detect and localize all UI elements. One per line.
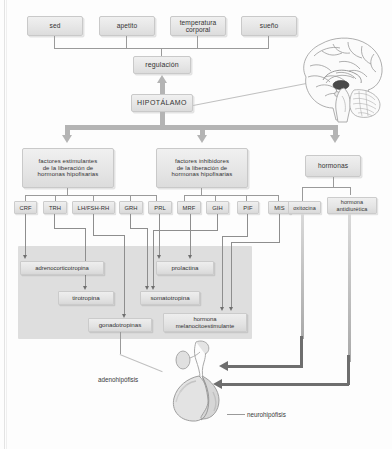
chip-gih-label: GIH xyxy=(212,205,223,211)
node-temperatura-corporal: temperatura corporal xyxy=(170,16,226,36)
connector-estimulantes-stem xyxy=(67,188,68,195)
chip-grh-label: GRH xyxy=(124,205,137,211)
node-factores-inhibidores: factores inhibidores de la liberación de… xyxy=(156,148,248,188)
hbox-adrenocorticotropina-label: adrenocorticotropina xyxy=(35,265,89,271)
hbox-prolactina: prolactina xyxy=(156,261,214,275)
route-crf-tip xyxy=(23,255,27,259)
node-sed: sed xyxy=(27,16,83,36)
route-lhfsh-a xyxy=(93,214,94,235)
route-grh-a xyxy=(130,214,131,228)
dark-arrow-oxitocina-vertical xyxy=(300,336,303,368)
band-branch-right xyxy=(333,125,338,136)
chip-lh-fsh-rh-label: LH/FSH-RH xyxy=(78,205,110,211)
route-mrf xyxy=(190,214,191,256)
connector-bus-to-regulacion xyxy=(161,48,162,56)
route-pif-b xyxy=(222,236,248,237)
connector-sed-down xyxy=(54,36,55,48)
connector-adh-down xyxy=(350,187,351,195)
node-temperatura-corporal-label: temperatura corporal xyxy=(180,19,217,34)
dark-arrow-adh-horizontal xyxy=(222,383,349,386)
route-prl xyxy=(159,214,160,256)
route-gih-c xyxy=(153,230,154,287)
node-hormonas: hormonas xyxy=(305,155,361,177)
node-sed-label: sed xyxy=(50,22,61,29)
chip-grh: GRH xyxy=(119,201,143,214)
route-mis-tip xyxy=(229,307,233,311)
chip-oxitocina: oxitocina xyxy=(288,201,321,214)
chip-trh: TRH xyxy=(43,201,67,214)
node-apetito: apetito xyxy=(99,16,155,36)
connector-temperatura-down xyxy=(197,36,198,48)
chip-crf-label: CRF xyxy=(19,205,31,211)
chip-pif: PIF xyxy=(237,201,259,214)
connector-hormonas-stem xyxy=(333,177,334,187)
node-factores-estimulantes-label: factores estimulantes de la liberación d… xyxy=(38,158,99,178)
chip-oxitocina-label: oxitocina xyxy=(293,205,316,211)
node-factores-estimulantes: factores estimulantes de la liberación d… xyxy=(22,148,114,188)
route-lhfsh-b xyxy=(93,235,124,236)
leader-gonadotropinas-stem xyxy=(120,332,121,354)
hbox-hormona-melanocitoestimulante: hormona melanocitoestimulante xyxy=(163,313,247,332)
node-hormonas-label: hormonas xyxy=(318,162,348,169)
route-mis-a xyxy=(279,214,280,242)
hbox-gonadotropinas-label: gonadotropinas xyxy=(99,322,142,329)
chip-mrf-label: MRF xyxy=(183,205,196,211)
chip-lh-fsh-rh: LH/FSH-RH xyxy=(72,201,115,214)
route-crf xyxy=(25,214,26,256)
chip-prl: PRL xyxy=(148,201,172,214)
chip-hormona-antidiuretica-label: hormona antidiurética xyxy=(337,199,368,212)
band-arrow-up-regulacion xyxy=(157,75,167,83)
leader-neurohipofisis xyxy=(227,414,245,415)
chip-mrf: MRF xyxy=(177,201,201,214)
connector-oxitocina-down xyxy=(302,187,303,201)
route-lhfsh-c xyxy=(124,235,125,315)
page-gutter-line-secondary xyxy=(6,0,7,449)
route-trh-b xyxy=(54,228,85,229)
pituitary-gland-illustration xyxy=(150,340,240,432)
route-mrf-tip xyxy=(188,255,192,259)
route-gih-tip xyxy=(151,286,155,290)
hbox-tirotropina-label: tirotropina xyxy=(72,295,100,302)
route-grh-b xyxy=(130,228,147,229)
hbox-gonadotropinas: gonadotropinas xyxy=(88,318,152,332)
band-arrow-down-right xyxy=(330,135,340,143)
route-grh-tip xyxy=(145,286,149,290)
route-pif-tip xyxy=(220,307,224,311)
chip-trh-label: TRH xyxy=(49,205,61,211)
band-branch-left xyxy=(65,125,70,136)
hbox-somatotropina: somatotropina xyxy=(140,291,200,305)
stem-hormona-antidiuretica xyxy=(348,214,351,362)
route-pif-a xyxy=(247,214,248,236)
label-neurohipofisis: neurohipófisis xyxy=(247,411,286,418)
route-gih-a xyxy=(217,214,218,230)
brain-sagittal-illustration xyxy=(292,30,390,130)
route-prl-tip xyxy=(157,255,161,259)
hbox-adrenocorticotropina: adrenocorticotropina xyxy=(20,261,104,275)
connector-inhibidores-bus xyxy=(184,195,278,196)
node-regulacion-label: regulación xyxy=(145,61,178,69)
hbox-tirotropina: tirotropina xyxy=(58,291,114,305)
connector-sueno-down xyxy=(268,36,269,48)
node-factores-inhibidores-label: factores inhibidores de la liberación de… xyxy=(172,158,233,178)
chip-prl-label: PRL xyxy=(154,205,166,211)
chip-pif-label: PIF xyxy=(243,205,252,211)
band-branch-middle xyxy=(200,125,205,136)
route-trh-c xyxy=(85,228,86,287)
route-mis-c xyxy=(231,242,232,308)
connector-hormonas-bus xyxy=(302,187,350,188)
hbox-hormona-melanocitoestimulante-label: hormona melanocitoestimulante xyxy=(176,316,235,329)
hbox-prolactina-label: prolactina xyxy=(172,265,199,272)
route-gih-b xyxy=(153,230,218,231)
band-arrow-down-middle xyxy=(197,135,207,143)
chip-gih: GIH xyxy=(206,201,229,214)
label-adenohipofisis: adenohipófisis xyxy=(98,376,138,383)
connector-apetito-down xyxy=(126,36,127,48)
chip-mis-label: MIS xyxy=(274,205,285,211)
dark-arrow-adh-vertical xyxy=(347,355,350,385)
diagram-canvas: sed apetito temperatura corporal sueño r… xyxy=(0,0,392,449)
band-hipotalamo-to-regulacion xyxy=(160,82,165,94)
route-mis-b xyxy=(231,242,280,243)
page-gutter-line xyxy=(4,0,5,449)
connector-estimulantes-bus xyxy=(25,195,156,196)
node-sueno: sueño xyxy=(241,16,297,36)
